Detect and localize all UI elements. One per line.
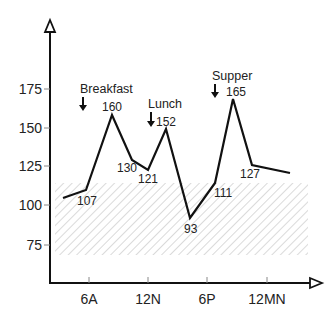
glucose-chart: 175 150 125 100 75 6A 12N 6P 12MN 107 16… bbox=[0, 0, 335, 319]
down-arrow-icon bbox=[211, 92, 219, 98]
down-arrow-icon bbox=[79, 105, 87, 111]
x-tick-label: 12MN bbox=[248, 291, 285, 307]
y-axis bbox=[45, 20, 55, 284]
annotation-label: Lunch bbox=[148, 97, 182, 111]
point-label: 107 bbox=[77, 194, 97, 208]
x-tick-label: 12N bbox=[135, 291, 161, 307]
y-axis-arrow-icon bbox=[45, 20, 55, 32]
y-tick-label: 150 bbox=[19, 120, 43, 136]
down-arrow-icon bbox=[147, 121, 155, 127]
x-axis bbox=[49, 278, 322, 288]
y-ticks: 175 150 125 100 75 bbox=[19, 81, 50, 253]
point-label: 121 bbox=[138, 172, 158, 186]
x-tick-label: 6A bbox=[80, 291, 98, 307]
x-ticks: 6A 12N 6P 12MN bbox=[80, 277, 285, 307]
point-label: 127 bbox=[240, 167, 260, 181]
y-tick-label: 175 bbox=[19, 81, 43, 97]
point-label: 93 bbox=[184, 222, 198, 236]
y-tick-label: 100 bbox=[19, 197, 43, 213]
point-label: 130 bbox=[117, 161, 137, 175]
point-label: 165 bbox=[226, 85, 246, 99]
annotation-label: Breakfast bbox=[80, 82, 133, 96]
x-axis-arrow-icon bbox=[310, 278, 322, 288]
point-label: 160 bbox=[102, 100, 122, 114]
y-tick-label: 125 bbox=[19, 158, 43, 174]
point-label: 111 bbox=[214, 186, 233, 200]
point-label: 152 bbox=[156, 115, 176, 129]
y-tick-label: 75 bbox=[26, 237, 42, 253]
annotation-label: Supper bbox=[212, 69, 252, 83]
x-tick-label: 6P bbox=[198, 291, 215, 307]
